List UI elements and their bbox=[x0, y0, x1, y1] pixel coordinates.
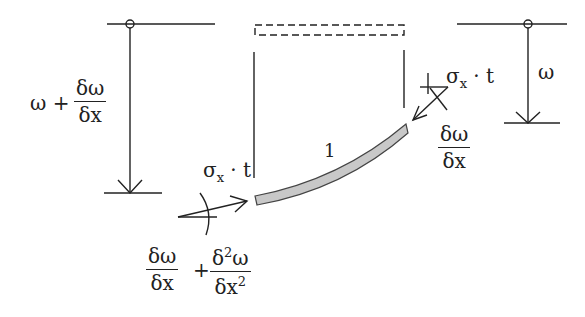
slope-left-fraction-2: δ2ω δx2 bbox=[210, 246, 251, 296]
left-deflection-fraction: δω δx bbox=[74, 78, 106, 125]
slope-left-fraction-1: δω δx bbox=[146, 246, 178, 293]
right-stress-arrow bbox=[413, 73, 448, 120]
deformed-plate bbox=[255, 124, 408, 205]
element-length-label: 1 bbox=[324, 142, 335, 160]
diagram-canvas bbox=[0, 0, 585, 317]
left-deflection-prefix: ω + bbox=[30, 93, 69, 113]
stress-right-label: σx · t bbox=[446, 66, 494, 90]
slope-right-fraction: δω δx bbox=[438, 124, 470, 171]
left-deflection-num: δω bbox=[74, 78, 106, 101]
stress-left-label: σx · t bbox=[203, 160, 251, 184]
left-deflection-den: δx bbox=[77, 102, 104, 125]
left-support bbox=[104, 20, 215, 193]
right-deflection-label: ω bbox=[538, 62, 554, 82]
left-stress-arrow bbox=[178, 193, 247, 235]
undeformed-element bbox=[255, 25, 404, 35]
slope-left-plus: + bbox=[193, 260, 210, 280]
